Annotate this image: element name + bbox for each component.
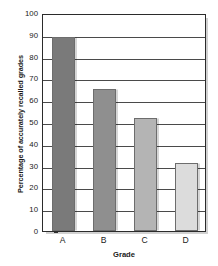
y-tick-label: 50: [16, 119, 38, 127]
bar-c[interactable]: [134, 118, 157, 231]
x-tick-label-a: A: [42, 234, 83, 246]
y-tick-label: 70: [16, 75, 38, 83]
bar-b[interactable]: [93, 89, 116, 231]
plot-area: [42, 14, 206, 232]
bar-slot: [175, 15, 198, 231]
y-tick-label: 20: [16, 184, 38, 192]
bar-d[interactable]: [175, 163, 198, 231]
y-tick-label: 80: [16, 54, 38, 62]
bar-slot: [134, 15, 157, 231]
y-tick-mark: [54, 232, 58, 233]
y-tick-label: 60: [16, 97, 38, 105]
bar-slot: [93, 15, 116, 231]
x-axis-tick-labels: ABCD: [42, 234, 206, 248]
y-tick-label: 0: [16, 228, 38, 236]
bar-chart: Percentage of accurately recalled grades…: [0, 0, 218, 266]
x-axis-title: Grade: [42, 250, 206, 260]
x-tick-label-b: B: [83, 234, 124, 246]
bar-series: [43, 15, 205, 231]
y-tick-label: 40: [16, 141, 38, 149]
y-tick-label: 100: [16, 10, 38, 18]
bar-slot: [52, 15, 75, 231]
y-tick-label: 10: [16, 206, 38, 214]
y-tick-label: 90: [16, 32, 38, 40]
x-tick-label-d: D: [165, 234, 206, 246]
bar-a[interactable]: [52, 37, 75, 231]
x-tick-label-c: C: [124, 234, 165, 246]
y-axis-tick-labels: 0102030405060708090100: [16, 14, 38, 232]
y-tick-label: 30: [16, 163, 38, 171]
